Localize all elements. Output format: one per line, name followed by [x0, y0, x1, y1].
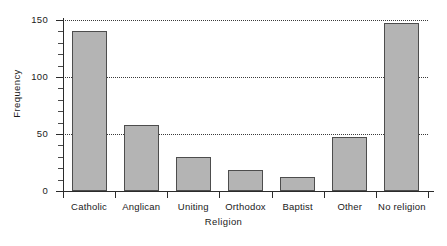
y-axis-tick-label: 50 — [8, 128, 48, 139]
x-axis-tick-label: No religion — [376, 201, 428, 212]
x-axis-tick-label: Uniting — [167, 201, 219, 212]
x-axis-tick — [272, 191, 273, 198]
x-axis-tick — [324, 191, 325, 198]
y-axis-minor-tick — [58, 66, 63, 67]
bar — [332, 137, 367, 191]
bar — [72, 31, 107, 191]
y-axis-minor-tick — [58, 54, 63, 55]
y-axis-minor-tick — [58, 31, 63, 32]
bar-chart: Frequency 050100150 CatholicAnglicanUnit… — [0, 0, 447, 246]
gridline — [63, 77, 428, 78]
y-axis-minor-tick — [58, 168, 63, 169]
y-axis-tick-label: 100 — [8, 71, 48, 82]
y-axis-major-tick — [56, 77, 63, 78]
x-axis-tick — [115, 191, 116, 198]
y-axis-minor-tick — [58, 123, 63, 124]
gridline — [63, 20, 428, 21]
y-axis-major-tick — [56, 191, 63, 192]
x-axis-tick-label: Baptist — [272, 201, 324, 212]
x-axis-tick-label: Anglican — [115, 201, 167, 212]
y-axis-minor-tick — [58, 157, 63, 158]
x-axis-tick — [376, 191, 377, 198]
x-axis-title: Religion — [0, 216, 447, 227]
x-axis-line — [56, 191, 434, 192]
plot-area — [63, 20, 428, 191]
bar — [176, 157, 211, 191]
y-axis-minor-tick — [58, 88, 63, 89]
bar — [384, 23, 419, 191]
x-axis-tick — [63, 191, 64, 198]
x-axis-tick-label: Catholic — [63, 201, 115, 212]
y-axis-minor-tick — [58, 111, 63, 112]
gridline — [63, 134, 428, 135]
bar — [124, 125, 159, 191]
x-axis-tick — [219, 191, 220, 198]
y-axis-major-tick — [56, 20, 63, 21]
y-axis-minor-tick — [58, 145, 63, 146]
x-axis-tick — [167, 191, 168, 198]
bar — [228, 170, 263, 191]
y-axis-tick-label: 150 — [8, 14, 48, 25]
x-axis-tick — [428, 191, 429, 198]
y-axis-tick-label: 0 — [8, 185, 48, 196]
y-axis-minor-tick — [58, 100, 63, 101]
y-axis-title: Frequency — [11, 54, 22, 134]
y-axis-major-tick — [56, 134, 63, 135]
y-axis-minor-tick — [58, 43, 63, 44]
y-axis-line — [63, 18, 64, 193]
bar — [280, 177, 315, 191]
y-axis-minor-tick — [58, 180, 63, 181]
x-axis-tick-label: Other — [324, 201, 376, 212]
x-axis-tick-label: Orthodox — [219, 201, 271, 212]
